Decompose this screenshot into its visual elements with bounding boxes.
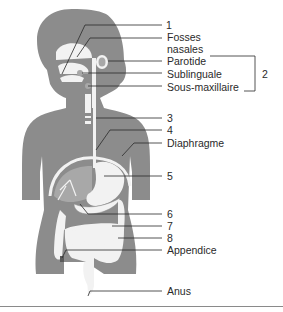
label-fosses: Fosses [167, 31, 201, 43]
label-4: 4 [167, 124, 173, 136]
label-sous-maxillaire: Sous-maxillaire [167, 81, 239, 93]
label-sublinguale: Sublinguale [167, 68, 222, 80]
label-7: 7 [167, 220, 173, 232]
trachea [85, 94, 91, 124]
label-appendice: Appendice [167, 244, 217, 256]
digestive-system-figure [0, 0, 283, 312]
label-1: 1 [166, 19, 172, 31]
label-nasales: nasales [167, 43, 203, 55]
label-diaphragme: Diaphragme [167, 137, 224, 149]
label-parotide: Parotide [167, 55, 206, 67]
label-5: 5 [167, 170, 173, 182]
label-2: 2 [262, 68, 268, 80]
appendix [60, 256, 64, 262]
label-anus: Anus [167, 285, 191, 297]
label-3: 3 [167, 112, 173, 124]
label-6: 6 [167, 208, 173, 220]
bottom-separator [0, 306, 283, 307]
label-8: 8 [167, 232, 173, 244]
